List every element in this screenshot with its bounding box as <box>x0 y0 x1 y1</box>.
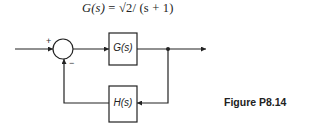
figure-caption: Figure P8.14 <box>224 96 286 108</box>
summing-junction <box>53 39 73 59</box>
feedback-path-to-h <box>137 49 168 103</box>
plus-sign: + <box>46 36 51 46</box>
forward-block-label: G(s) <box>109 42 137 53</box>
minus-sign: − <box>69 58 74 68</box>
feedback-block-label: H(s) <box>109 97 137 108</box>
